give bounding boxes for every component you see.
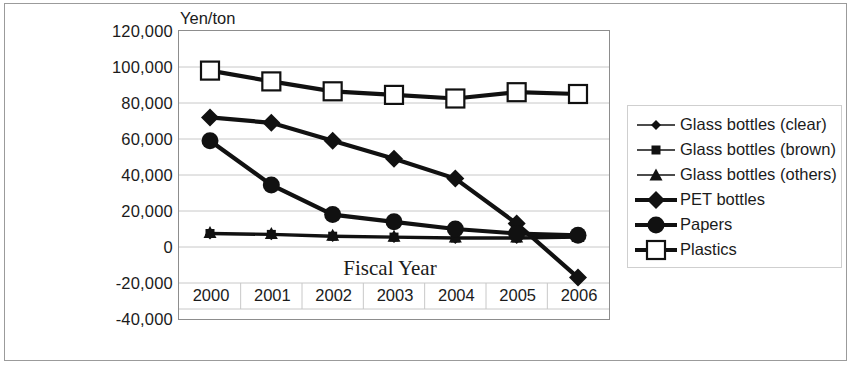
plot-area: 2000200120022003200420052006 Fiscal Year xyxy=(178,30,610,320)
series-plastics xyxy=(201,62,587,108)
data-point-marker xyxy=(324,82,342,100)
data-point-marker xyxy=(569,85,587,103)
x-axis-tick-label: 2001 xyxy=(254,286,291,305)
legend-key xyxy=(634,214,678,236)
data-point-marker xyxy=(385,86,403,104)
data-point-marker xyxy=(262,114,280,132)
y-axis-tick-label: 120,000 xyxy=(73,22,173,41)
legend-marker-diamond-small-icon xyxy=(634,114,678,136)
legend-item-glass-bottles-brown[interactable]: Glass bottles (brown) xyxy=(634,137,841,162)
y-axis-tick-label: 100,000 xyxy=(73,58,173,77)
legend-marker-square-open-icon xyxy=(634,239,678,261)
legend-item-label: Plastics xyxy=(680,240,737,259)
series-papers xyxy=(202,132,587,244)
y-axis-tick-label: 80,000 xyxy=(73,94,173,113)
y-axis-tick-label: 20,000 xyxy=(73,202,173,221)
data-point-marker xyxy=(324,206,341,223)
legend-marker-circle-filled-icon xyxy=(634,214,678,236)
data-point-marker xyxy=(262,72,280,90)
legend-item-label: Glass bottles (clear) xyxy=(680,115,827,134)
data-point-marker xyxy=(263,176,280,193)
x-axis-tick-label: 2003 xyxy=(377,286,414,305)
legend-key xyxy=(634,189,678,211)
data-point-marker xyxy=(648,216,665,233)
x-axis-tick-label: 2002 xyxy=(315,286,352,305)
legend-item-pet-bottles[interactable]: PET bottles xyxy=(634,187,841,212)
data-point-marker xyxy=(570,227,587,244)
data-point-marker xyxy=(202,132,219,149)
x-axis-tick-label: 2006 xyxy=(561,286,598,305)
legend-item-glass-bottles-others[interactable]: Glass bottles (others) xyxy=(634,162,841,187)
y-axis-tick-labels: 120,000100,00080,00060,00040,00020,0000-… xyxy=(5,4,173,362)
legend-item-glass-bottles-clear[interactable]: Glass bottles (clear) xyxy=(634,112,841,137)
legend-item-label: Glass bottles (brown) xyxy=(680,140,836,159)
y-axis-tick-label: 60,000 xyxy=(73,130,173,149)
line-chart: Yen/ton 120,000100,00080,00060,00040,000… xyxy=(5,4,848,362)
legend-item-label: PET bottles xyxy=(680,190,765,209)
data-point-marker xyxy=(647,241,665,259)
x-axis-tick-label: 2005 xyxy=(499,286,536,305)
legend-key xyxy=(634,114,678,136)
x-axis-tick-label: 2000 xyxy=(193,286,230,305)
x-axis-title: Fiscal Year xyxy=(343,256,436,281)
figure-frame: Yen/ton 120,000100,00080,00060,00040,000… xyxy=(4,3,847,361)
data-point-marker xyxy=(201,62,219,80)
legend-marker-square-filled-small-icon xyxy=(634,139,678,161)
y-axis-tick-label: 40,000 xyxy=(73,166,173,185)
legend-key xyxy=(634,164,678,186)
data-point-marker xyxy=(447,221,464,238)
data-point-marker xyxy=(647,191,665,209)
legend-key xyxy=(634,139,678,161)
chart-legend: Glass bottles (clear)Glass bottles (brow… xyxy=(627,105,842,268)
data-point-marker xyxy=(446,90,464,108)
data-point-marker xyxy=(508,83,526,101)
legend-marker-triangle-filled-icon xyxy=(634,164,678,186)
y-axis-tick-label: 0 xyxy=(73,238,173,257)
y-axis-tick-label: -40,000 xyxy=(73,310,173,329)
legend-marker-diamond-large-icon xyxy=(634,189,678,211)
legend-key xyxy=(634,239,678,261)
data-point-marker xyxy=(201,108,219,126)
data-point-marker xyxy=(386,213,403,230)
series-line xyxy=(210,117,578,277)
y-axis-tick-label: -20,000 xyxy=(73,274,173,293)
legend-item-papers[interactable]: Papers xyxy=(634,212,841,237)
series-layer xyxy=(201,62,587,287)
data-point-marker xyxy=(508,225,525,242)
data-point-marker xyxy=(324,132,342,150)
data-point-marker xyxy=(385,150,403,168)
legend-item-label: Glass bottles (others) xyxy=(680,165,837,184)
y-axis-unit-label: Yen/ton xyxy=(180,9,235,28)
data-point-marker xyxy=(652,145,661,154)
legend-item-label: Papers xyxy=(680,215,732,234)
data-point-marker xyxy=(651,120,661,130)
x-axis-tick-label: 2004 xyxy=(438,286,475,305)
legend-item-plastics[interactable]: Plastics xyxy=(634,237,841,262)
